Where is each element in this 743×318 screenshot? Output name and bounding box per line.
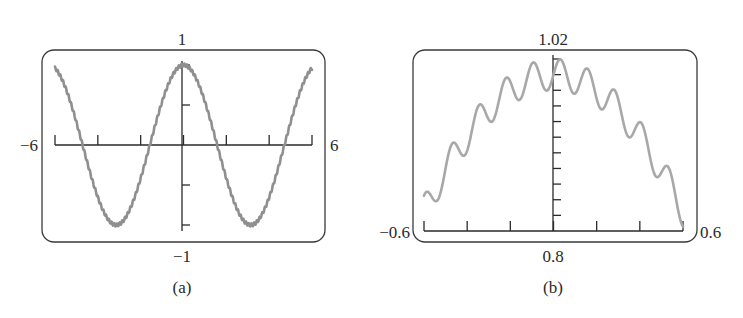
panel-a-xmin-label: −6 <box>20 136 38 155</box>
panel-a-xmax-label: 6 <box>330 136 339 155</box>
panel-a-ymin-label: −1 <box>173 247 191 266</box>
panel-b-xmin-label: −0.6 <box>379 223 410 242</box>
panel-b-ymin-label: 0.8 <box>542 247 563 266</box>
panel-a: 1 −1 −6 6 (a) <box>20 30 339 297</box>
figure: 1 −1 −6 6 (a) 1.02 0.8 −0.6 0.6 (b) <box>0 0 743 318</box>
panel-b: 1.02 0.8 −0.6 0.6 (b) <box>379 30 721 297</box>
panel-a-ymax-label: 1 <box>178 30 187 49</box>
panel-a-axes <box>55 61 312 231</box>
panel-b-caption: (b) <box>543 278 563 297</box>
panel-b-ymax-label: 1.02 <box>538 30 568 49</box>
panel-a-caption: (a) <box>173 278 192 297</box>
panel-b-axes <box>424 55 683 231</box>
panel-b-xmax-label: 0.6 <box>700 223 721 242</box>
